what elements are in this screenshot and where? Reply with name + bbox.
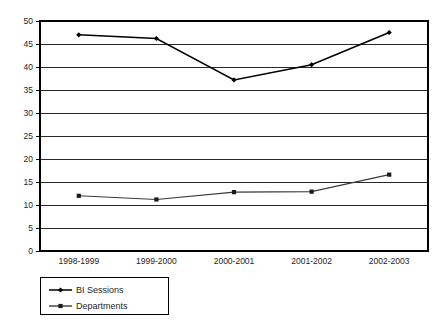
data-point-marker <box>310 190 314 194</box>
x-tick-label: 1998-1999 <box>58 256 99 266</box>
data-point-marker <box>232 190 236 194</box>
y-tick-label: 10 <box>24 200 34 210</box>
legend-label: Departments <box>76 301 128 311</box>
line-chart: 05101520253035404550 1998-19991999-20002… <box>0 0 443 325</box>
y-tick-label: 35 <box>24 85 34 95</box>
legend-label: BI Sessions <box>76 285 124 295</box>
y-tick-label: 30 <box>24 108 34 118</box>
y-tick-label: 50 <box>24 16 34 26</box>
data-point-marker <box>387 173 391 177</box>
y-tick-label: 25 <box>24 131 34 141</box>
y-tick-label: 40 <box>24 62 34 72</box>
x-tick-label: 2002-2003 <box>369 256 410 266</box>
x-tick-label: 2001-2002 <box>291 256 332 266</box>
x-tick-label: 2000-2001 <box>214 256 255 266</box>
legend-marker-square <box>58 304 62 308</box>
x-tick-label: 1999-2000 <box>136 256 177 266</box>
y-tick-label: 5 <box>28 223 33 233</box>
y-tick-label: 15 <box>24 177 34 187</box>
data-point-marker <box>154 197 158 201</box>
chart-background <box>0 0 443 325</box>
y-tick-label: 45 <box>24 39 34 49</box>
chart-canvas: 05101520253035404550 1998-19991999-20002… <box>0 0 443 325</box>
chart-legend: BI SessionsDepartments <box>40 277 168 314</box>
y-tick-label: 0 <box>28 246 33 256</box>
data-point-marker <box>77 194 81 198</box>
y-tick-label: 20 <box>24 154 34 164</box>
